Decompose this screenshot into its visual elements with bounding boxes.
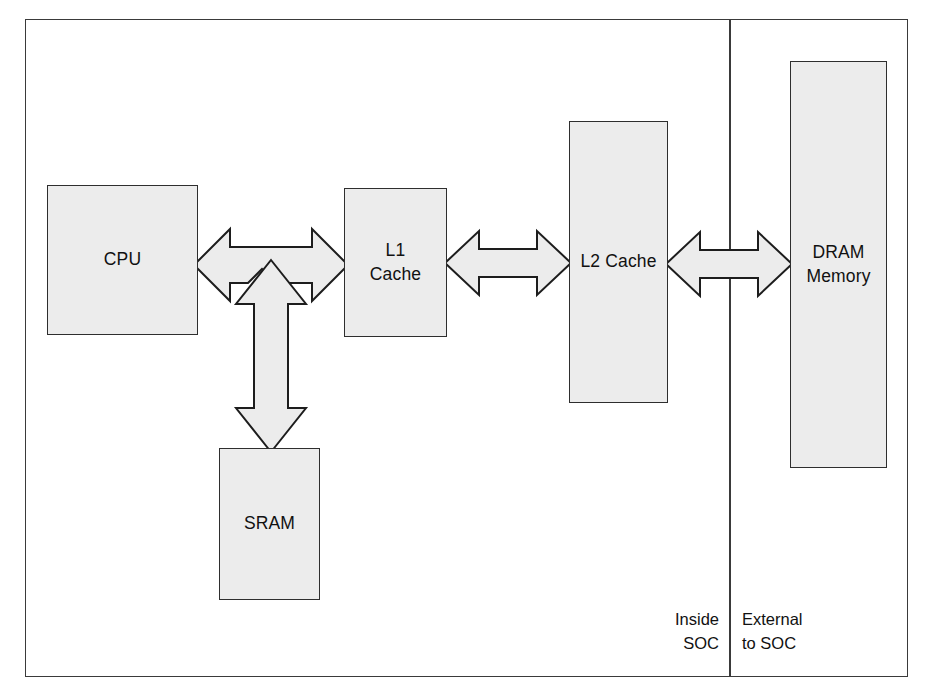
bidirectional-arrow-l2-dram: [664, 229, 794, 299]
bidirectional-arrow-cpu-sram: [232, 258, 310, 454]
block-sram-label: SRAM: [244, 512, 295, 535]
block-dram-memory[interactable]: DRAM Memory: [790, 61, 887, 468]
block-l1-cache-label: L1 Cache: [370, 239, 421, 285]
block-l2-cache[interactable]: L2 Cache: [569, 121, 668, 403]
diagram-canvas: CPU L1 Cache L2 Cache SRAM DRAM Memory I…: [0, 0, 928, 691]
soc-boundary-divider: [729, 20, 731, 676]
block-l1-cache[interactable]: L1 Cache: [344, 188, 447, 337]
bidirectional-arrow-l1-l2: [443, 228, 573, 298]
block-dram-memory-label: DRAM Memory: [806, 241, 870, 287]
region-label-external-to-soc: External to SOC: [742, 608, 892, 656]
block-sram[interactable]: SRAM: [219, 448, 320, 600]
block-cpu-label: CPU: [104, 248, 141, 271]
block-l2-cache-label: L2 Cache: [580, 250, 656, 273]
diagram-outer-frame: [25, 19, 908, 677]
region-label-inside-soc: Inside SOC: [579, 608, 719, 656]
block-cpu[interactable]: CPU: [47, 185, 198, 335]
